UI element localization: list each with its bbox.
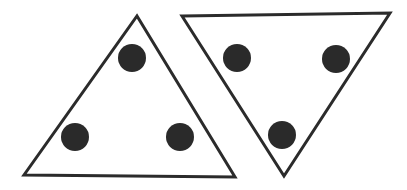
downward-triangle-dot-top-left [223,44,251,72]
figure-svg [0,0,407,190]
figure-canvas [0,0,407,190]
downward-triangle-dot-top-right [322,45,350,73]
upward-triangle-dot-top [118,44,146,72]
figure-background [0,0,407,190]
upward-triangle-dot-bottom-right [166,123,194,151]
upward-triangle-dot-bottom-left [61,123,89,151]
downward-triangle-dot-bottom [268,121,296,149]
